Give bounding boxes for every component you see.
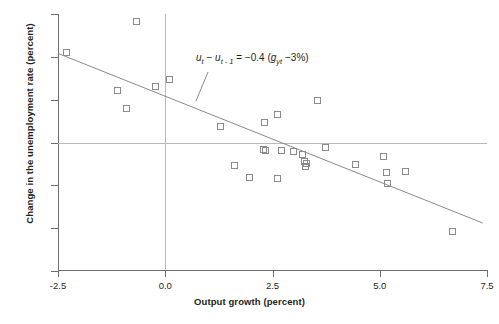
y-tick [51, 100, 58, 101]
data-point [166, 76, 173, 83]
data-point [384, 180, 391, 187]
y-tick [51, 14, 58, 15]
y-tick [51, 271, 58, 272]
x-tick-label: 0.0 [142, 280, 188, 291]
data-point [262, 147, 269, 154]
x-tick-label: 5.0 [357, 280, 403, 291]
y-axis-title: Change in the unemployment rate (percent… [24, 0, 35, 249]
data-point [314, 97, 321, 104]
regression-equation-annotation: ut − ut - 1 = −0.4 (gyt −3%) [196, 52, 309, 66]
x-tick-label: 7.5 [464, 280, 499, 291]
x-tick [487, 270, 488, 277]
data-point [322, 144, 329, 151]
x-tick [165, 270, 166, 277]
x-tick [273, 270, 274, 277]
data-point [303, 160, 310, 167]
data-point [261, 119, 268, 126]
x-tick-label: -2.5 [35, 280, 81, 291]
y-tick [51, 228, 58, 229]
unemployment-okun-scatter-chart: Change in the unemployment rate (percent… [0, 0, 499, 324]
x-tick [380, 270, 381, 277]
data-point [63, 49, 70, 56]
x-tick [58, 270, 59, 277]
data-point [133, 18, 140, 25]
x-axis-title: Output growth (percent) [0, 296, 499, 307]
data-point [231, 162, 238, 169]
data-point [114, 87, 121, 94]
data-point [217, 123, 224, 130]
data-point [152, 83, 159, 90]
data-point [246, 174, 253, 181]
y-tick [51, 57, 58, 58]
data-point [274, 175, 281, 182]
y-tick [51, 185, 58, 186]
data-point [402, 168, 409, 175]
data-point [274, 111, 281, 118]
data-point [449, 228, 456, 235]
x-tick-label: 2.5 [250, 280, 296, 291]
data-point [290, 148, 297, 155]
y-tick [51, 143, 58, 144]
data-point [123, 105, 130, 112]
data-point [352, 161, 359, 168]
data-point [278, 147, 285, 154]
data-point [380, 153, 387, 160]
data-point [383, 169, 390, 176]
